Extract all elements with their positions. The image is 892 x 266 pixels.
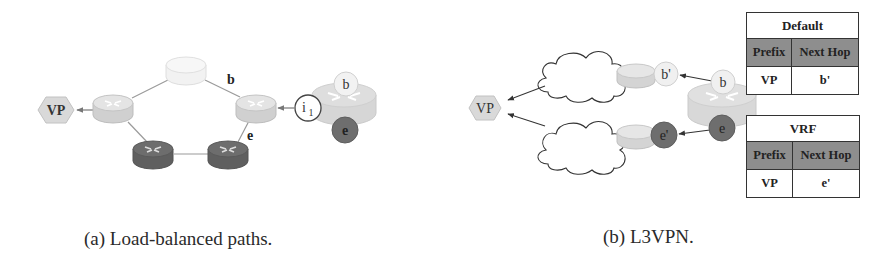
vrf-table-title: VRF bbox=[747, 116, 860, 142]
interface-b-a: b bbox=[334, 72, 358, 96]
default-cell-prefix: VP bbox=[747, 67, 792, 95]
link-label-b: b bbox=[227, 72, 235, 87]
default-header-prefix: Prefix bbox=[747, 39, 792, 67]
big-router-e-label-b: e bbox=[719, 121, 725, 136]
interface-e-a: e bbox=[332, 117, 358, 143]
router-right-icon bbox=[236, 95, 276, 123]
vrf-header-next-hop: Next Hop bbox=[793, 142, 860, 170]
arrow-b-to-b-prime bbox=[680, 75, 712, 81]
cloud-lower-icon bbox=[538, 121, 625, 174]
i1-subscript: 1 bbox=[309, 107, 314, 118]
big-router-b-label-b: b bbox=[720, 75, 727, 90]
router-top-icon bbox=[166, 57, 206, 85]
default-routing-table: Default Prefix Next Hop VP b' bbox=[746, 12, 859, 95]
vp-node-b: VP bbox=[469, 96, 501, 120]
caption-panel-b: (b) L3VPN. bbox=[603, 226, 694, 248]
default-table-title: Default bbox=[747, 13, 859, 39]
vp-label-a: VP bbox=[47, 103, 66, 118]
interface-i1: i 1 bbox=[295, 95, 321, 121]
arrow-e-to-e-prime bbox=[679, 130, 710, 134]
vp-node-a: VP bbox=[38, 97, 74, 123]
router-left-icon bbox=[93, 95, 133, 123]
b-prime-label: b' bbox=[661, 67, 671, 82]
e-prime-label: e' bbox=[660, 128, 669, 143]
arrow-cloud-lower-to-vp bbox=[508, 114, 545, 126]
vrf-cell-prefix: VP bbox=[747, 170, 793, 198]
link-label-e: e bbox=[247, 128, 253, 143]
router-bottom-left-dark-icon bbox=[133, 141, 173, 169]
vrf-header-prefix: Prefix bbox=[747, 142, 793, 170]
panel-b-diagram: VP b' e' b bbox=[469, 51, 756, 174]
interface-e-prime: e' bbox=[651, 122, 677, 148]
interface-e-b: e bbox=[709, 115, 735, 141]
cloud-upper-icon bbox=[538, 51, 625, 102]
big-router-e-label-a: e bbox=[342, 123, 348, 138]
router-e-prime-icon bbox=[617, 125, 655, 149]
arrow-cloud-upper-to-vp bbox=[508, 86, 545, 100]
vrf-cell-next-hop: e' bbox=[793, 170, 860, 198]
interface-b-prime: b' bbox=[654, 62, 678, 86]
interface-b-b: b bbox=[711, 70, 735, 94]
caption-panel-a: (a) Load-balanced paths. bbox=[84, 228, 272, 250]
vp-label-b: VP bbox=[476, 101, 494, 116]
router-bottom-right-dark-icon bbox=[208, 141, 248, 169]
router-b-prime-icon bbox=[617, 64, 655, 88]
i1-label: i bbox=[302, 100, 306, 115]
default-cell-next-hop: b' bbox=[792, 67, 859, 95]
default-header-next-hop: Next Hop bbox=[792, 39, 859, 67]
panel-a-diagram: VP b e bbox=[38, 57, 376, 169]
big-router-b-label-a: b bbox=[343, 77, 350, 92]
vrf-routing-table: VRF Prefix Next Hop VP e' bbox=[746, 115, 860, 198]
